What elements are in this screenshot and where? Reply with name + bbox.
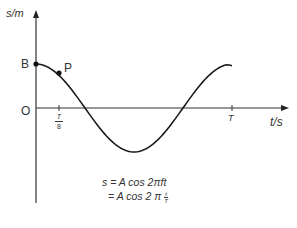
point-b-marker bbox=[33, 61, 38, 66]
equation-line-2: = A cos 2 π t T bbox=[108, 191, 168, 204]
point-b-label: B bbox=[21, 58, 29, 70]
origin-label: O bbox=[21, 105, 30, 117]
y-axis-arrow-icon bbox=[33, 10, 39, 18]
tick-label-t: T bbox=[228, 114, 234, 123]
tick-label-t-over-8: T 8 bbox=[55, 113, 63, 130]
equation-frac-num: t bbox=[165, 191, 167, 197]
x-axis-label: t/s bbox=[270, 116, 283, 128]
tick-frac-num: T bbox=[57, 113, 61, 120]
equation-fraction: t T bbox=[164, 191, 168, 204]
point-p-label: P bbox=[64, 62, 72, 74]
equation-frac-den: T bbox=[164, 198, 168, 204]
x-axis-arrow-icon bbox=[281, 105, 289, 111]
equation-line-2-prefix: = A cos 2 π bbox=[108, 190, 161, 202]
equation-line-1: s = A cos 2πft bbox=[102, 177, 166, 188]
y-axis-label: s/m bbox=[6, 8, 24, 19]
tick-frac-den: 8 bbox=[57, 123, 61, 130]
point-p-marker bbox=[56, 70, 61, 75]
